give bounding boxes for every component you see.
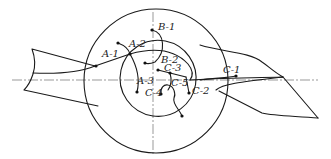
node-b2-end xyxy=(143,61,146,64)
b1-curve xyxy=(145,30,163,64)
node-a-junction xyxy=(128,52,131,55)
label-a2: A-2 xyxy=(128,38,146,49)
node-c3-end xyxy=(156,68,159,71)
label-b1: B-1 xyxy=(157,21,175,32)
label-c1: C-1 xyxy=(223,64,240,75)
label-a1: A-1 xyxy=(101,48,119,59)
right-blade-upper xyxy=(200,45,283,77)
label-c2: C-2 xyxy=(192,85,209,96)
node-c2-end xyxy=(187,91,190,94)
outer-circle xyxy=(84,9,228,153)
label-c3: C-3 xyxy=(164,62,181,73)
diagram-canvas: A-1 A-2 A-3 B-1 B-2 C-3 C-5 C-2 C-4 C-1 xyxy=(0,0,331,159)
left-wing-outline xyxy=(24,49,98,106)
label-c5: C-5 xyxy=(171,77,188,88)
node-a3-end xyxy=(135,90,138,93)
node-a2-end xyxy=(116,41,119,44)
right-blade-bottom xyxy=(219,91,318,118)
node-a1-junction xyxy=(94,64,97,67)
node-c5-end xyxy=(180,114,183,117)
label-a3: A-3 xyxy=(136,75,154,86)
node-b1-end xyxy=(150,28,153,31)
c4-curve xyxy=(161,85,182,116)
label-c4: C-4 xyxy=(145,87,162,98)
a3-branch xyxy=(130,54,138,92)
